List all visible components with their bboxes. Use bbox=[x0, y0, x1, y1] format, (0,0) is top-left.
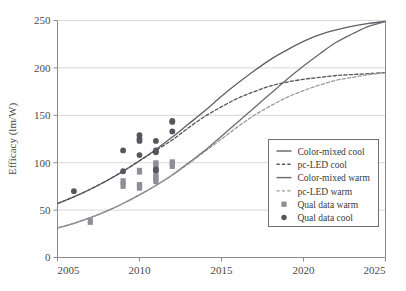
scatter-qual-data-warm-point bbox=[170, 162, 175, 169]
scatter-qual-data-cool-point bbox=[169, 129, 175, 135]
scatter-qual-data-cool-point bbox=[137, 138, 143, 144]
scatter-qual-data-cool-point bbox=[169, 119, 175, 125]
y-axis-tick-label: 0 bbox=[45, 251, 51, 263]
chart-figure: 05010015020025020052010201520202025Effic… bbox=[0, 0, 406, 291]
y-axis-tick-label: 150 bbox=[34, 109, 51, 121]
x-axis-tick-label: 2015 bbox=[211, 264, 234, 276]
x-axis-tick-label: 2005 bbox=[58, 264, 81, 276]
scatter-qual-data-cool-point bbox=[137, 152, 143, 158]
y-axis-tick-label: 50 bbox=[40, 204, 52, 216]
chart-legend: Color-mixed coolpc-LED coolColor-mixed w… bbox=[269, 140, 379, 227]
scatter-qual-data-warm-point bbox=[137, 184, 142, 191]
scatter-qual-data-warm-point bbox=[137, 168, 142, 175]
scatter-qual-data-cool-point bbox=[120, 168, 126, 174]
y-axis-tick-label: 100 bbox=[34, 157, 51, 169]
legend-item-label: Qual data cool bbox=[298, 213, 354, 223]
scatter-qual-data-cool-point bbox=[153, 149, 159, 155]
efficacy-projection-chart: 05010015020025020052010201520202025Effic… bbox=[0, 0, 406, 291]
legend-swatch-square-icon bbox=[281, 202, 286, 207]
x-axis-tick-label: 2025 bbox=[364, 264, 387, 276]
legend-item-label: Qual data warm bbox=[298, 200, 359, 210]
y-axis-tick-label: 200 bbox=[34, 62, 51, 74]
y-axis-tick-label: 250 bbox=[34, 14, 51, 26]
y-axis-title: Efficacy (lm/W) bbox=[6, 103, 19, 176]
legend-item-label: Color-mixed warm bbox=[298, 173, 371, 183]
legend-item-label: pc-LED warm bbox=[298, 187, 353, 197]
scatter-qual-data-cool-point bbox=[153, 167, 159, 173]
legend-item-label: pc-LED cool bbox=[298, 160, 348, 170]
scatter-qual-data-warm-point bbox=[88, 218, 93, 225]
scatter-qual-data-cool-point bbox=[153, 138, 159, 144]
legend-swatch-circle-icon bbox=[281, 215, 286, 220]
scatter-qual-data-cool-point bbox=[71, 188, 77, 194]
scatter-qual-data-warm-point bbox=[153, 177, 158, 184]
x-axis-tick-label: 2020 bbox=[293, 264, 316, 276]
x-axis-tick-label: 2010 bbox=[129, 264, 152, 276]
scatter-qual-data-warm-point bbox=[121, 178, 126, 185]
scatter-qual-data-cool-point bbox=[120, 147, 126, 153]
legend-item-label: Color-mixed cool bbox=[298, 147, 365, 157]
